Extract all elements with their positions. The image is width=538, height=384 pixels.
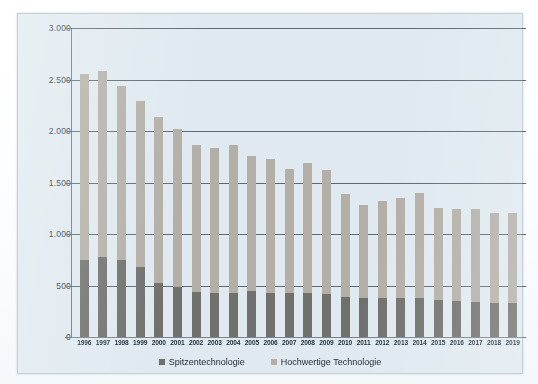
stacked-bar[interactable] [508, 213, 517, 337]
stacked-bar[interactable] [415, 193, 424, 337]
bar-segment-hochwertige-technologie[interactable] [117, 86, 126, 260]
bar-segment-spitzentechnologie[interactable] [490, 303, 499, 337]
bar-slot-2018[interactable] [485, 28, 504, 337]
stacked-bar[interactable] [117, 86, 126, 337]
stacked-bar[interactable] [471, 209, 480, 337]
stacked-bar[interactable] [452, 209, 461, 337]
bar-segment-spitzentechnologie[interactable] [471, 302, 480, 337]
stacked-bar[interactable] [80, 74, 89, 337]
bar-slot-2001[interactable] [168, 28, 187, 337]
bar-segment-spitzentechnologie[interactable] [266, 293, 275, 337]
bar-segment-spitzentechnologie[interactable] [154, 283, 163, 337]
bar-segment-hochwertige-technologie[interactable] [322, 170, 331, 294]
bar-slot-1998[interactable] [112, 28, 131, 337]
stacked-bar[interactable] [378, 201, 387, 337]
bar-segment-spitzentechnologie[interactable] [378, 298, 387, 337]
bar-slot-2003[interactable] [205, 28, 224, 337]
stacked-bar[interactable] [247, 156, 256, 337]
bar-segment-spitzentechnologie[interactable] [452, 301, 461, 337]
bar-segment-spitzentechnologie[interactable] [359, 298, 368, 337]
bar-segment-spitzentechnologie[interactable] [508, 303, 517, 338]
bar-slot-2007[interactable] [280, 28, 299, 337]
bar-slot-1996[interactable] [75, 28, 94, 337]
bar-segment-hochwertige-technologie[interactable] [247, 156, 256, 290]
bar-slot-2017[interactable] [466, 28, 485, 337]
bar-segment-spitzentechnologie[interactable] [229, 293, 238, 337]
bar-slot-2000[interactable] [150, 28, 169, 337]
bar-segment-spitzentechnologie[interactable] [341, 297, 350, 337]
stacked-bar[interactable] [210, 148, 219, 337]
stacked-bar[interactable] [396, 198, 405, 337]
bar-slot-2011[interactable] [354, 28, 373, 337]
stacked-bar[interactable] [285, 169, 294, 337]
bar-segment-hochwertige-technologie[interactable] [98, 71, 107, 257]
bar-slot-2013[interactable] [392, 28, 411, 337]
bar-slot-2012[interactable] [373, 28, 392, 337]
bar-slot-1999[interactable] [131, 28, 150, 337]
bar-segment-hochwertige-technologie[interactable] [359, 205, 368, 298]
bar-segment-hochwertige-technologie[interactable] [508, 213, 517, 303]
stacked-bar[interactable] [136, 101, 145, 337]
bar-slot-2019[interactable] [503, 28, 522, 337]
bar-slot-2006[interactable] [261, 28, 280, 337]
stacked-bar[interactable] [98, 71, 107, 337]
bar-slot-2005[interactable] [243, 28, 262, 337]
stacked-bar[interactable] [359, 205, 368, 337]
bar-segment-hochwertige-technologie[interactable] [434, 208, 443, 301]
bar-segment-spitzentechnologie[interactable] [80, 260, 89, 337]
bar-segment-hochwertige-technologie[interactable] [285, 169, 294, 294]
bar-segment-spitzentechnologie[interactable] [210, 293, 219, 337]
stacked-bar[interactable] [490, 213, 499, 337]
bar-segment-hochwertige-technologie[interactable] [415, 193, 424, 298]
bar-segment-spitzentechnologie[interactable] [192, 292, 201, 337]
bar-segment-hochwertige-technologie[interactable] [136, 101, 145, 267]
x-axis-label-2018: 2018 [485, 339, 504, 353]
stacked-bar[interactable] [192, 145, 201, 337]
bar-segment-hochwertige-technologie[interactable] [378, 201, 387, 298]
bar-segment-hochwertige-technologie[interactable] [229, 145, 238, 293]
bar-segment-spitzentechnologie[interactable] [396, 298, 405, 337]
bar-segment-hochwertige-technologie[interactable] [80, 74, 89, 259]
stacked-bar[interactable] [154, 117, 163, 337]
bar-slot-2002[interactable] [187, 28, 206, 337]
bar-segment-spitzentechnologie[interactable] [117, 260, 126, 337]
bar-segment-hochwertige-technologie[interactable] [266, 159, 275, 293]
bar-slot-2016[interactable] [448, 28, 467, 337]
bar-segment-hochwertige-technologie[interactable] [396, 198, 405, 298]
bar-segment-spitzentechnologie[interactable] [98, 257, 107, 337]
bar-segment-spitzentechnologie[interactable] [247, 291, 256, 337]
bar-segment-spitzentechnologie[interactable] [415, 298, 424, 337]
bar-segment-hochwertige-technologie[interactable] [452, 209, 461, 301]
bar-segment-spitzentechnologie[interactable] [303, 293, 312, 337]
bar-segment-hochwertige-technologie[interactable] [210, 148, 219, 293]
bar-segment-spitzentechnologie[interactable] [285, 293, 294, 337]
bar-slot-1997[interactable] [94, 28, 113, 337]
bar-segment-hochwertige-technologie[interactable] [192, 145, 201, 292]
bar-slot-2010[interactable] [336, 28, 355, 337]
bar-slot-2014[interactable] [410, 28, 429, 337]
stacked-bar[interactable] [173, 129, 182, 337]
stacked-bar[interactable] [434, 208, 443, 337]
bar-segment-hochwertige-technologie[interactable] [490, 213, 499, 303]
bar-segment-hochwertige-technologie[interactable] [341, 194, 350, 298]
stacked-bar[interactable] [341, 194, 350, 337]
bar-segment-hochwertige-technologie[interactable] [173, 129, 182, 287]
bar-slot-2009[interactable] [317, 28, 336, 337]
bar-segment-spitzentechnologie[interactable] [136, 267, 145, 337]
stacked-bar[interactable] [303, 163, 312, 337]
stacked-bar[interactable] [229, 145, 238, 337]
bar-segment-spitzentechnologie[interactable] [322, 294, 331, 337]
bar-slot-2004[interactable] [224, 28, 243, 337]
bar-slot-2015[interactable] [429, 28, 448, 337]
bar-segment-hochwertige-technologie[interactable] [471, 209, 480, 302]
bar-slot-2008[interactable] [299, 28, 318, 337]
stacked-bar[interactable] [266, 159, 275, 337]
bar-segment-spitzentechnologie[interactable] [173, 287, 182, 337]
legend-item[interactable]: Hochwertige Technologie [271, 357, 381, 367]
bar-segment-hochwertige-technologie[interactable] [303, 163, 312, 292]
x-axis-label-1998: 1998 [112, 339, 131, 353]
legend-item[interactable]: Spitzentechnologie [159, 357, 245, 367]
bar-segment-spitzentechnologie[interactable] [434, 300, 443, 337]
bar-segment-hochwertige-technologie[interactable] [154, 117, 163, 284]
stacked-bar[interactable] [322, 170, 331, 337]
